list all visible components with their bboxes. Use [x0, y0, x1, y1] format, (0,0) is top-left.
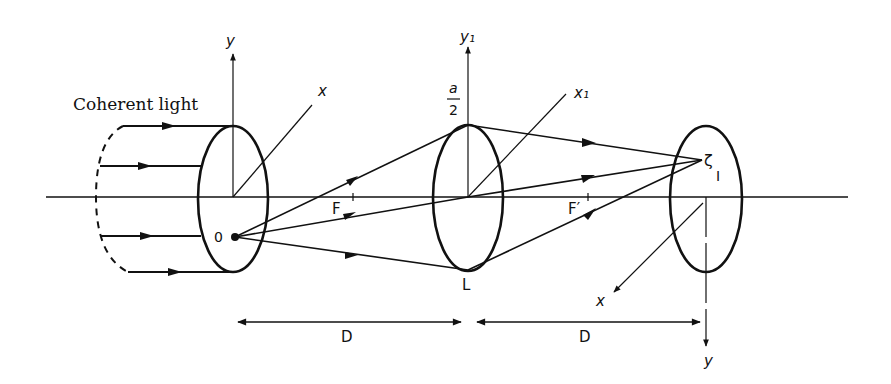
back-focal-label: F′	[568, 200, 581, 218]
distance-label-2: D	[579, 328, 591, 346]
image-glyph: ζ	[704, 151, 713, 170]
coherent-light-label: Coherent light	[73, 94, 198, 114]
lens-x-label: x₁	[573, 84, 589, 102]
lens-y-label: y₁	[459, 28, 475, 46]
image-y-label: y	[703, 352, 714, 370]
image-x-label: x	[595, 292, 605, 310]
aperture-denominator: 2	[449, 102, 458, 118]
origin-label: 0	[214, 229, 223, 245]
front-focal-label: F	[332, 200, 341, 218]
wavefront-dashed	[96, 126, 128, 272]
diagram-canvas: y x Coherent light 0 y₁ x₁ a 2 L F F′ x	[0, 0, 891, 384]
object-x-axis	[233, 105, 312, 197]
aperture-numerator: a	[449, 80, 458, 96]
object-x-label: x	[317, 82, 327, 100]
object-y-label: y	[225, 32, 236, 50]
image-ray-arrow-icons	[581, 138, 596, 220]
distance-label-1: D	[341, 328, 353, 346]
lens-label: L	[462, 276, 471, 294]
optics-diagram: y x Coherent light 0 y₁ x₁ a 2 L F F′ x	[0, 0, 891, 384]
lens-x-axis	[468, 94, 566, 197]
ray-arrow-icons	[138, 122, 182, 276]
image-point-label: I	[716, 168, 720, 184]
image-x-axis	[614, 203, 703, 292]
incoming-rays	[100, 126, 233, 272]
